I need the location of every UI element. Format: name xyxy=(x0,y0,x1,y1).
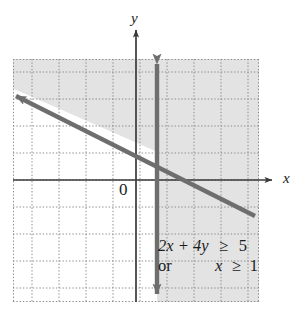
inequality-2-lhs: x xyxy=(215,256,222,275)
y-axis-label: y xyxy=(131,10,138,27)
inequality-1-rhs: 5 xyxy=(233,236,247,256)
inequality-graph-figure: y x 0 2x + 4y ≥ 5 or x ≥ 1 xyxy=(0,0,304,320)
inequality-2-relation: ≥ xyxy=(227,256,245,276)
x-axis-label: x xyxy=(283,170,290,187)
graph-svg xyxy=(0,0,304,320)
origin-label: 0 xyxy=(119,180,128,200)
inequality-1-lhs: 2x + 4y xyxy=(158,236,214,256)
inequality-connector: or xyxy=(158,256,172,276)
inequality-1-relation: ≥ xyxy=(214,236,233,256)
inequality-line-2: or x ≥ 1 xyxy=(158,256,258,276)
inequality-line-1: 2x + 4y ≥ 5 xyxy=(158,236,258,256)
inequality-annotation: 2x + 4y ≥ 5 or x ≥ 1 xyxy=(158,236,258,276)
inequality-2-rhs: 1 xyxy=(245,256,258,276)
